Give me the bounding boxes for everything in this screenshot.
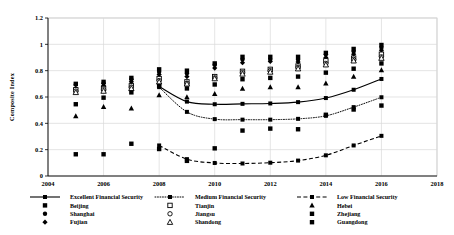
filled-square-marker <box>324 153 328 157</box>
legend-item-label: Shanghai <box>70 211 95 217</box>
filled-square-marker <box>185 110 189 114</box>
filled-square-marker <box>185 100 189 104</box>
legend-item[interactable]: Tianjin <box>168 203 215 209</box>
filled-square-marker <box>185 86 189 90</box>
legend-series-label: Medium Financial Security <box>195 194 266 200</box>
filled-square-marker <box>296 74 300 78</box>
filled-square-marker <box>379 134 383 138</box>
filled-square-marker <box>129 142 133 146</box>
filled-square-marker <box>352 143 356 147</box>
filled-square-marker <box>379 77 383 81</box>
legend-item-label: Beijing <box>70 203 89 209</box>
x-tick-label: 2004 <box>42 180 56 187</box>
filled-square-marker <box>74 152 78 156</box>
filled-square-marker <box>213 82 217 86</box>
filled-square-marker <box>296 127 300 131</box>
filled-square-marker <box>157 85 161 89</box>
filled-square-marker <box>213 161 217 165</box>
filled-square-marker <box>43 203 47 207</box>
filled-square-marker <box>324 114 328 118</box>
legend-item-label: Zhejiang <box>337 211 360 217</box>
legend-item-label: Fujian <box>70 219 88 225</box>
filled-square-marker <box>268 101 272 105</box>
legend-series-label: Low Financial Security <box>337 194 398 200</box>
filled-square-marker <box>310 212 314 216</box>
filled-square-marker <box>241 118 245 122</box>
legend-column-3: Low Financial SecurityHebeiZhejiangGuang… <box>297 194 398 225</box>
filled-square-marker <box>129 90 133 94</box>
y-tick-label: 1 <box>40 41 43 48</box>
filled-square-marker <box>296 100 300 104</box>
open-square-marker <box>168 203 172 207</box>
filled-square-marker <box>310 220 314 224</box>
y-tick-label: 1.2 <box>35 14 43 21</box>
legend-item-label: Jiangsu <box>195 211 216 217</box>
filled-square-marker <box>101 95 105 99</box>
x-tick-label: 2010 <box>208 180 221 187</box>
legend-item-label: Hebei <box>337 203 353 209</box>
legend-series-label: Excellent Financial Security <box>70 194 143 200</box>
legend-item-label: Guangdong <box>337 219 367 225</box>
legend-item[interactable]: Shandong <box>167 219 221 225</box>
filled-square-marker <box>296 117 300 121</box>
legend-item[interactable]: Shanghai <box>43 211 95 217</box>
y-tick-label: 0.8 <box>35 67 43 74</box>
open-circle-marker <box>168 212 172 216</box>
legend-item[interactable]: Fujian <box>42 219 87 225</box>
legend-item[interactable]: Hebei <box>309 203 352 209</box>
filled-square-marker <box>379 95 383 99</box>
filled-square-marker <box>74 102 78 106</box>
filled-square-marker <box>241 102 245 106</box>
filled-square-marker <box>213 102 217 106</box>
filled-square-marker <box>213 117 217 121</box>
chart-container: 00.20.40.60.811.220042006200820102012201… <box>0 0 454 235</box>
x-tick-label: 2008 <box>153 180 166 187</box>
filled-circle-marker <box>43 212 47 216</box>
legend-item[interactable]: Zhejiang <box>310 211 361 217</box>
y-tick-label: 0 <box>40 172 43 179</box>
filled-square-marker <box>168 195 172 199</box>
filled-square-marker <box>296 159 300 163</box>
x-tick-label: 2018 <box>431 180 444 187</box>
legend-item[interactable]: Guangdong <box>310 219 368 225</box>
filled-square-marker <box>379 61 383 65</box>
y-tick-label: 0.2 <box>35 146 43 153</box>
y-tick-label: 0.4 <box>35 120 44 127</box>
legend-item[interactable]: Beijing <box>43 203 89 209</box>
legend-column-1: Excellent Financial SecurityBeijingShang… <box>30 194 143 225</box>
filled-square-marker <box>157 147 161 151</box>
filled-square-marker <box>324 96 328 100</box>
filled-square-marker <box>352 105 356 109</box>
filled-square-marker <box>351 66 355 70</box>
filled-square-marker <box>352 88 356 92</box>
filled-square-marker <box>379 103 383 107</box>
filled-square-marker <box>185 157 189 161</box>
filled-square-marker <box>268 161 272 165</box>
x-tick-label: 2016 <box>375 180 389 187</box>
open-triangle-marker <box>167 219 172 224</box>
filled-square-marker <box>101 152 105 156</box>
filled-square-marker <box>43 195 47 199</box>
filled-square-marker <box>240 77 244 81</box>
legend-item-label: Shandong <box>195 219 221 225</box>
legend-item[interactable]: Jiangsu <box>168 211 216 217</box>
filled-square-marker <box>157 143 161 147</box>
filled-diamond-marker <box>42 220 47 225</box>
filled-square-marker <box>240 128 244 132</box>
x-tick-label: 2012 <box>264 180 277 187</box>
x-tick-label: 2014 <box>319 180 333 187</box>
filled-square-marker <box>213 146 217 150</box>
filled-square-marker <box>324 70 328 74</box>
filled-square-marker <box>268 126 272 130</box>
filled-square-marker <box>310 195 314 199</box>
filled-square-marker <box>268 118 272 122</box>
composite-index-scatter-chart: 00.20.40.60.811.220042006200820102012201… <box>0 0 454 235</box>
legend-column-2: Medium Financial SecurityTianjinJiangsuS… <box>155 194 266 225</box>
x-tick-label: 2006 <box>97 180 111 187</box>
filled-square-marker <box>268 76 272 80</box>
filled-triangle-marker <box>309 203 314 208</box>
legend-item-label: Tianjin <box>195 203 215 209</box>
chart-legend: Excellent Financial SecurityBeijingShang… <box>30 194 398 225</box>
y-tick-label: 0.6 <box>35 93 44 100</box>
filled-square-marker <box>241 161 245 165</box>
